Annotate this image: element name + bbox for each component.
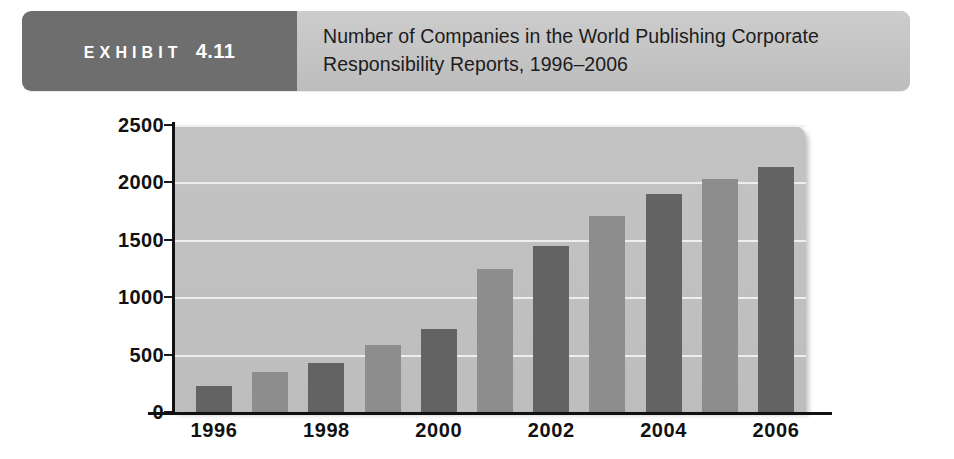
x-axis-tick-label-1998: 1998 [303, 419, 350, 442]
exhibit-tag-text: EXHIBIT 4.11 [84, 40, 235, 63]
x-axis-tick-label-2000: 2000 [415, 419, 462, 442]
bar-2001 [477, 269, 513, 413]
bar-2004 [646, 194, 682, 412]
y-axis-line [172, 122, 175, 415]
bar-2005 [702, 179, 738, 412]
x-axis-tick-label-2006: 2006 [753, 419, 800, 442]
exhibit-label-word: EXHIBIT [84, 44, 183, 62]
y-axis-tick-label: 500 [129, 343, 164, 366]
bar-series [174, 125, 806, 412]
bar-1997 [252, 372, 288, 412]
x-axis-tick-label-2004: 2004 [640, 419, 687, 442]
bar-2003 [589, 216, 625, 412]
exhibit-number-tag: EXHIBIT 4.11 [22, 11, 297, 91]
x-axis-tick-label-2002: 2002 [528, 419, 575, 442]
y-axis-tick-label: 2500 [118, 114, 164, 137]
bar-1996 [196, 386, 232, 412]
exhibit-title-container: Number of Companies in the World Publish… [297, 11, 910, 91]
exhibit-header-bar: EXHIBIT 4.11 Number of Companies in the … [22, 11, 910, 91]
bar-1998 [308, 363, 344, 412]
x-axis-line [148, 412, 832, 415]
bar-1999 [365, 345, 401, 412]
y-axis-tick-label: 1500 [118, 228, 164, 251]
x-axis-tick-label-1996: 1996 [191, 419, 238, 442]
bar-2006 [758, 167, 794, 412]
y-axis-tick-label: 1000 [118, 286, 164, 309]
y-axis-tick-label: 2000 [118, 171, 164, 194]
bar-chart-figure: 05001000150020002500 1996199820002002200… [0, 104, 954, 459]
y-axis-tick-labels: 05001000150020002500 [78, 104, 164, 424]
plot-area [174, 125, 806, 412]
bar-2002 [533, 246, 569, 412]
bar-2000 [421, 329, 457, 412]
exhibit-title: Number of Companies in the World Publish… [323, 23, 890, 78]
exhibit-label-number: 4.11 [196, 40, 235, 63]
x-axis-tick-labels: 199619982000200220042006 [174, 419, 806, 459]
